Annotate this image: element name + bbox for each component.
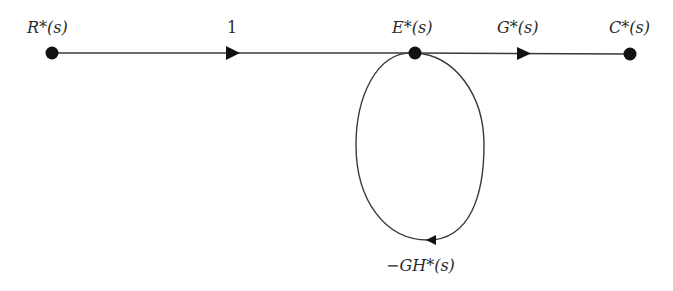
- node-c-label: C*(s): [609, 20, 650, 36]
- self-loop-branch: [356, 53, 484, 245]
- node-e: [409, 47, 422, 60]
- branch-e-to-c: [415, 47, 630, 60]
- signal-flow-graph-canvas: [0, 0, 673, 291]
- arrowhead-icon: [226, 46, 240, 60]
- node-r: [46, 47, 59, 60]
- arrowhead-icon: [517, 47, 531, 60]
- gain-label-1: 1: [227, 20, 237, 36]
- node-c: [624, 48, 637, 61]
- arrowhead-icon: [426, 235, 436, 245]
- gain-label-g: G*(s): [497, 20, 538, 36]
- node-e-label: E*(s): [392, 20, 432, 36]
- branch-r-to-e: [52, 46, 415, 60]
- node-r-label: R*(s): [27, 20, 68, 36]
- signal-flow-graph: R*(s) 1 E*(s) G*(s) C*(s) −GH*(s): [0, 0, 673, 291]
- gain-label-loop: −GH*(s): [386, 258, 455, 274]
